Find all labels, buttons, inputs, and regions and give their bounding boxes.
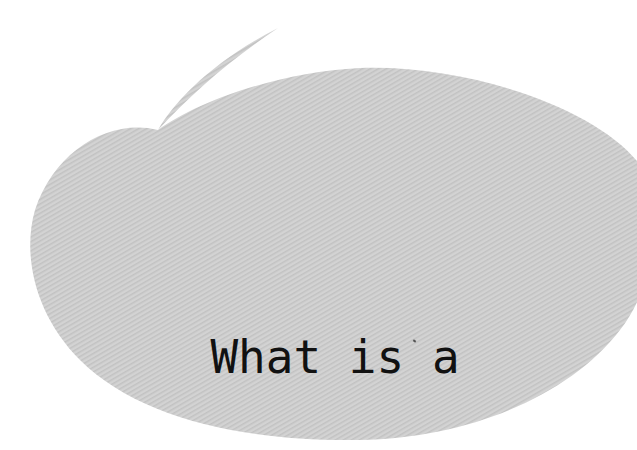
bubble-text-line-1: What is a <box>0 326 637 389</box>
bubble-question-text: What is a Blue Moon? <box>0 200 637 450</box>
speech-bubble-graphic: What is a Blue Moon? <box>0 0 637 450</box>
